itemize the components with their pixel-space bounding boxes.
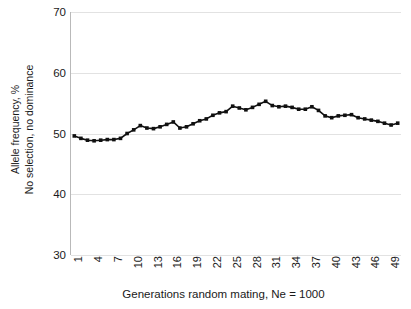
x-tick-label: 13 xyxy=(153,256,164,268)
data-point-marker xyxy=(73,134,77,138)
data-point-marker xyxy=(257,103,261,107)
x-tick-label: 25 xyxy=(232,256,243,268)
x-tick-label: 16 xyxy=(172,256,183,268)
data-point-marker xyxy=(132,128,136,132)
y-tick-label: 60 xyxy=(38,67,66,78)
data-series-line xyxy=(71,12,401,255)
x-tick-label: 34 xyxy=(291,256,302,268)
y-tick-label: 40 xyxy=(38,189,66,200)
x-tick-label: 49 xyxy=(390,256,401,268)
data-point-marker xyxy=(383,121,387,125)
y-tick-label: 70 xyxy=(38,7,66,18)
data-point-marker xyxy=(284,104,288,108)
x-axis-title: Generations random mating, Ne = 1000 xyxy=(46,288,401,300)
series-line xyxy=(74,101,397,140)
data-point-marker xyxy=(125,132,129,136)
data-point-marker xyxy=(165,123,169,127)
data-point-marker xyxy=(99,138,103,142)
data-point-marker xyxy=(191,122,195,126)
data-point-marker xyxy=(211,113,215,117)
clipped-chart-title xyxy=(74,0,274,3)
x-tick-label: 22 xyxy=(212,256,223,268)
data-point-marker xyxy=(251,106,255,110)
y-axis-title-line1: Allele frequency, % xyxy=(10,64,24,194)
data-point-marker xyxy=(317,109,321,113)
data-point-marker xyxy=(139,124,143,128)
chart-figure: Allele frequency, % No selection, no dom… xyxy=(0,0,411,309)
data-point-marker xyxy=(277,105,281,109)
data-point-marker xyxy=(271,104,275,108)
data-point-marker xyxy=(185,125,189,129)
data-point-marker xyxy=(244,108,248,112)
data-point-marker xyxy=(92,139,96,143)
data-point-marker xyxy=(145,126,149,130)
x-tick-label: 10 xyxy=(133,256,144,268)
data-point-marker xyxy=(343,113,347,117)
x-tick-label: 43 xyxy=(351,256,362,268)
y-tick-label: 30 xyxy=(38,250,66,261)
x-tick-label: 37 xyxy=(311,256,322,268)
x-tick-label: 1 xyxy=(73,256,84,262)
data-point-marker xyxy=(337,114,341,118)
data-point-marker xyxy=(152,127,156,131)
data-point-marker xyxy=(376,120,380,124)
x-tick-label: 40 xyxy=(331,256,342,268)
data-point-marker xyxy=(231,104,235,108)
data-point-marker xyxy=(172,120,176,124)
data-point-marker xyxy=(350,113,354,117)
data-point-marker xyxy=(205,117,209,121)
x-tick-label: 7 xyxy=(113,256,124,262)
data-point-marker xyxy=(310,105,314,109)
data-point-marker xyxy=(112,138,116,142)
x-tick-label: 31 xyxy=(271,256,282,268)
data-point-marker xyxy=(356,116,360,120)
data-point-marker xyxy=(290,106,294,110)
y-axis-title-line2: No selection, no dominance xyxy=(23,64,37,194)
data-point-marker xyxy=(106,138,110,142)
data-point-marker xyxy=(264,100,268,104)
data-point-marker xyxy=(323,114,327,118)
data-point-marker xyxy=(119,137,123,141)
data-point-marker xyxy=(158,125,162,129)
x-tick-label: 4 xyxy=(93,256,104,262)
data-point-marker xyxy=(297,107,301,111)
plot-area xyxy=(70,12,400,255)
data-point-marker xyxy=(389,123,393,127)
data-point-marker xyxy=(178,126,182,130)
y-axis-tick-labels: 7060504030 xyxy=(36,0,66,309)
x-tick-label: 28 xyxy=(252,256,263,268)
data-point-marker xyxy=(238,106,242,110)
data-point-marker xyxy=(304,107,308,111)
data-point-marker xyxy=(198,119,202,123)
x-axis-tick-labels: 1471013161922252831343740434649 xyxy=(70,256,400,286)
x-tick-label: 46 xyxy=(370,256,381,268)
data-point-marker xyxy=(370,118,374,122)
data-point-marker xyxy=(396,121,400,125)
x-tick-label: 19 xyxy=(192,256,203,268)
data-point-marker xyxy=(86,138,90,142)
y-tick-label: 50 xyxy=(38,128,66,139)
data-point-marker xyxy=(330,116,334,120)
data-point-marker xyxy=(218,111,222,115)
data-point-marker xyxy=(363,117,367,121)
data-point-marker xyxy=(79,137,83,141)
data-point-marker xyxy=(224,110,228,114)
